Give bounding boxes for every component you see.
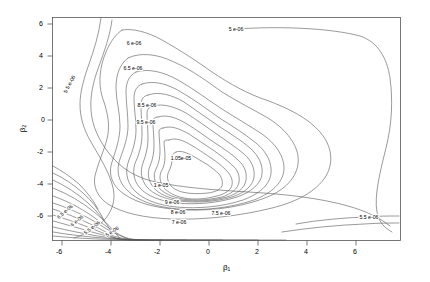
y-tick-label-0: -6 [37,212,43,219]
x-axis-ticks [62,241,356,246]
contour-level-6e-06 [95,29,331,219]
contour-ridge-12 [53,166,98,209]
contour-lines [53,18,399,240]
y-axis-title: β₂ [18,125,27,133]
contour-level-5e-06-outer [236,28,392,232]
svg-text:7 e-06: 7 e-06 [172,219,187,225]
svg-text:9.5 e-06: 9.5 e-06 [136,119,155,125]
contour-bottom-right-1 [296,216,399,224]
svg-text:8 e-06: 8 e-06 [171,209,186,215]
x-axis-title: β₁ [223,263,230,272]
y-tick-label-6: 6 [39,20,43,27]
y-axis-ticks [48,24,53,216]
svg-text:5 e-06: 5 e-06 [229,26,244,32]
x-tick-label-3: 0 [206,248,210,255]
svg-text:6.5 e-06: 6.5 e-06 [123,65,142,71]
svg-text:5.5 e-06: 5.5 e-06 [359,214,378,220]
contour-bottom-right-2 [282,223,399,232]
contour-level-9.5e-06 [154,127,239,200]
contour-plot-canvas: 5 e-06 6 e-06 6.5 e-06 8.5 e-06 9.5 e-06… [0,0,430,282]
x-tick-label-1: -4 [105,248,111,255]
y-tick-label-5: 4 [39,52,43,59]
y-tick-label-1: -4 [37,180,43,187]
svg-text:1.05e-05: 1.05e-05 [171,155,192,161]
x-tick-label-2: -2 [154,248,160,255]
svg-text:9 e-06: 9 e-06 [165,199,180,205]
y-tick-label-3: 0 [41,116,45,123]
y-tick-label-4: 2 [39,84,43,91]
svg-text:6.5 e-06: 6.5 e-06 [55,203,74,220]
x-tick-label-0: -6 [56,248,62,255]
contour-level-5e-06-left [74,18,114,238]
svg-text:1 e-05: 1 e-05 [154,182,169,188]
svg-text:5.5 e-06: 5.5 e-06 [62,74,76,94]
x-tick-label-4: 2 [255,248,259,255]
svg-text:7.5 e-06: 7.5 e-06 [211,210,230,216]
contour-ridge-3 [53,196,130,240]
x-tick-label-6: 6 [353,248,357,255]
contour-plot-figure: 5 e-06 6 e-06 6.5 e-06 8.5 e-06 9.5 e-06… [0,0,430,282]
svg-text:6 e-06: 6 e-06 [127,40,142,46]
x-tick-label-5: 4 [304,248,308,255]
svg-text:8.5 e-06: 8.5 e-06 [137,102,156,108]
y-tick-label-2: -2 [37,148,43,155]
